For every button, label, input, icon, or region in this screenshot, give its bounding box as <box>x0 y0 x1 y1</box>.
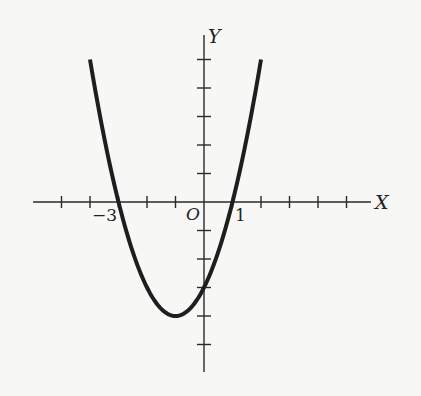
x-tick-label-neg3: −3 <box>92 205 117 225</box>
axes <box>33 35 371 372</box>
parabola-curve <box>90 60 261 317</box>
y-axis-label: Y <box>208 25 223 47</box>
origin-label: O <box>186 204 200 224</box>
x-axis-label: X <box>373 191 390 213</box>
x-tick-label-1: 1 <box>235 205 246 225</box>
parabola-chart: Y X O −3 1 <box>0 0 421 396</box>
